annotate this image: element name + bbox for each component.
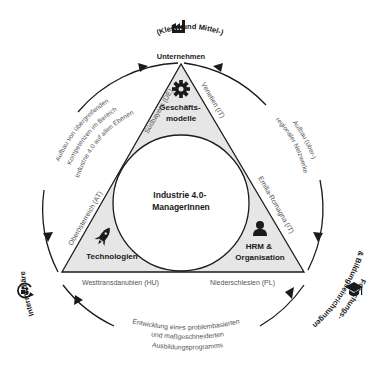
- arc-right: [308, 180, 323, 270]
- outcome-bottom-line1: Entwicklung eines problembasierten: [132, 317, 241, 331]
- outcome-bottom-line2: und maßgeschneiderten: [151, 330, 225, 341]
- stakeholder-top-line2: Unternehmen: [157, 52, 206, 61]
- outcome-right-line2: regionaler Netzwerke: [275, 116, 310, 175]
- region-niederschlesien: Niederschlesien (PL): [210, 279, 275, 287]
- svg-text:Aufbau von übergreifenden: Aufbau von übergreifenden: [54, 97, 110, 162]
- svg-text:Entwicklung eines problembasie: Entwicklung eines problembasierten: [132, 317, 241, 331]
- corner-right-label-line2: Organisation: [235, 253, 284, 262]
- corner-left-label: Technologien: [86, 252, 138, 261]
- svg-text:regionaler Netzwerke: regionaler Netzwerke: [275, 116, 310, 175]
- svg-text:Intermediäre: Intermediäre: [18, 271, 36, 318]
- center-title-line1: Industrie 4.0-: [153, 190, 206, 200]
- svg-text:Ausbildungsprogramms: Ausbildungsprogramms: [152, 341, 224, 352]
- stakeholder-left-label: Intermediäre: [18, 271, 36, 318]
- arrow-icon: [74, 295, 83, 305]
- arrow-icon: [313, 232, 323, 242]
- stakeholder-top-line1: (Klein- und Mittel-): [155, 22, 225, 37]
- arc-bottom-left: [63, 285, 114, 326]
- corner-top-label-line2: modelle: [166, 114, 197, 123]
- arrow-icon: [285, 287, 294, 299]
- arc-left: [43, 190, 58, 272]
- gear-icon: [172, 80, 190, 98]
- arrow-icon: [43, 232, 53, 242]
- corner-right-label-line1: HRM &: [246, 242, 272, 251]
- outcome-left-line1: Aufbau von übergreifenden: [54, 97, 110, 162]
- arc-bottom-right: [260, 285, 304, 326]
- svg-text:(Klein- und Mittel-): (Klein- und Mittel-): [155, 22, 225, 37]
- svg-text:und maßgeschneiderten: und maßgeschneiderten: [151, 330, 225, 341]
- outcome-bottom-line3: Ausbildungsprogramms: [152, 341, 224, 352]
- industrie-40-diagram: Industrie 4.0- ManagerInnen Geschäfts- m…: [0, 0, 381, 370]
- region-westtransdanubien: Westtransdanubien (HU): [82, 279, 159, 287]
- center-title-line2: ManagerInnen: [152, 202, 210, 212]
